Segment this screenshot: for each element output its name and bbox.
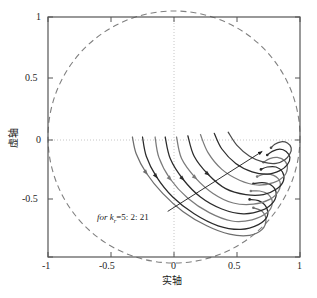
figure-root-locus: -1 -0.5 0 0.5 1 1 0.5 0 -0.5 实轴 虚轴 for k… [0,0,317,298]
annotation-suffix: =5: 2: 21 [116,212,149,222]
xtick-label-2: 0 [171,261,176,271]
ytick-label-3: -0.5 [22,194,38,204]
xtick-label-0: -1 [42,261,50,271]
locus-endpoint-marker [266,154,269,157]
locus-endpoint-marker [270,147,273,150]
ytick-label-2: 0 [36,135,41,145]
locus-endpoint-marker [260,168,263,171]
annotation-prefix: for [97,212,110,222]
ytick-label-0: 1 [36,12,41,22]
xtick-label-1: -0.5 [99,261,115,271]
xtick-label-3: 0.5 [228,261,241,271]
locus-endpoint-marker [256,175,259,178]
ytick-label-1: 0.5 [25,73,38,83]
plot-canvas [0,0,317,298]
locus-endpoint-marker [252,207,255,210]
locus-endpoint-marker [248,198,251,201]
locus-annotation: for kr=5: 2: 21 [97,212,149,226]
x-axis-title: 实轴 [162,275,182,286]
y-axis-title: 虚轴 [8,128,19,148]
xtick-label-4: 1 [297,261,302,271]
locus-endpoint-marker [250,190,253,193]
